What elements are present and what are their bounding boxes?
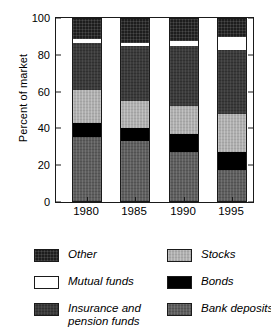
bar-segment-other bbox=[170, 19, 198, 41]
y-axis-tick-label: 20 bbox=[38, 159, 50, 171]
legend-swatch-other-icon bbox=[34, 249, 59, 262]
y-axis-tick-mark-right bbox=[248, 18, 253, 19]
y-axis-tick-mark bbox=[56, 128, 61, 129]
y-axis-tick-label: 80 bbox=[38, 49, 50, 61]
bar-segment-stocks bbox=[73, 90, 101, 123]
legend-swatch-bonds-icon bbox=[167, 276, 192, 289]
bar-segment-other bbox=[73, 19, 101, 39]
legend-item-insurance[interactable]: Insurance and pension funds bbox=[34, 302, 156, 318]
y-axis-tick-mark-right bbox=[248, 128, 253, 129]
bar-segment-insurance bbox=[73, 43, 101, 90]
legend-item-bank[interactable]: Bank deposits bbox=[167, 302, 271, 318]
legend-label-bank: Bank deposits bbox=[201, 302, 271, 315]
x-axis-tick-label-1995: 1995 bbox=[218, 205, 244, 217]
legend-item-other[interactable]: Other bbox=[34, 248, 156, 264]
legend-item-mutual[interactable]: Mutual funds bbox=[34, 275, 156, 291]
bar-segment-stocks bbox=[121, 101, 149, 128]
plot-area-wrapper: Percent of market 100806040200 198019851… bbox=[0, 0, 271, 240]
legend-swatch-insurance-icon bbox=[34, 303, 59, 316]
y-axis-tick-label: 40 bbox=[38, 122, 50, 134]
y-axis-tick-mark-right bbox=[248, 202, 253, 203]
legend-label-insurance: Insurance and pension funds bbox=[68, 302, 141, 328]
legend-swatch-bank-icon bbox=[167, 303, 192, 316]
bar-segment-bonds bbox=[73, 123, 101, 138]
bar-segment-mutual bbox=[218, 37, 246, 50]
x-axis-tick-mark bbox=[232, 197, 233, 202]
bar-segment-bonds bbox=[121, 128, 149, 141]
y-axis-tick-label: 0 bbox=[44, 196, 50, 208]
x-axis-tick-mark bbox=[184, 197, 185, 202]
y-axis-tick-mark-right bbox=[248, 91, 253, 92]
stacked-bar-chart-figure: Percent of market 100806040200 198019851… bbox=[0, 0, 271, 336]
bar-segment-bonds bbox=[218, 152, 246, 170]
bar-segment-bank bbox=[121, 141, 149, 201]
legend-item-stocks[interactable]: Stocks bbox=[167, 248, 271, 264]
bar-segment-stocks bbox=[170, 106, 198, 133]
legend-column-right: StocksBondsBank deposits bbox=[167, 248, 271, 329]
legend-label-stocks: Stocks bbox=[201, 248, 236, 261]
y-axis-tick-label: 60 bbox=[38, 86, 50, 98]
bar-segment-bonds bbox=[170, 134, 198, 152]
legend-label-other: Other bbox=[68, 248, 97, 261]
bar-1980[interactable] bbox=[72, 18, 102, 202]
bar-segment-bank bbox=[73, 137, 101, 201]
bar-segment-stocks bbox=[218, 114, 246, 152]
y-axis-tick-mark-right bbox=[248, 165, 253, 166]
bar-segment-insurance bbox=[218, 50, 246, 114]
bar-1995[interactable] bbox=[217, 18, 247, 202]
bar-segment-other bbox=[121, 19, 149, 43]
x-axis-tick-mark bbox=[135, 197, 136, 202]
x-axis-tick-label-1990: 1990 bbox=[170, 205, 196, 217]
bar-segment-insurance bbox=[170, 46, 198, 106]
legend-swatch-stocks-icon bbox=[167, 249, 192, 262]
bar-segment-bank bbox=[170, 152, 198, 201]
y-axis-tick-mark bbox=[56, 91, 61, 92]
y-axis-tick-label: 100 bbox=[32, 12, 50, 24]
y-axis-label: Percent of market bbox=[17, 28, 29, 168]
legend-item-bonds[interactable]: Bonds bbox=[167, 275, 271, 291]
legend-swatch-mutual-icon bbox=[34, 276, 59, 289]
x-axis-tick-label-1985: 1985 bbox=[121, 205, 147, 217]
legend-label-mutual: Mutual funds bbox=[68, 275, 134, 288]
bar-segment-insurance bbox=[121, 46, 149, 101]
x-axis-tick-mark bbox=[87, 197, 88, 202]
x-axis-tick-label-1980: 1980 bbox=[73, 205, 99, 217]
bar-1990[interactable] bbox=[169, 18, 199, 202]
y-axis-tick-mark bbox=[56, 202, 61, 203]
plot-axes: 100806040200 bbox=[55, 17, 254, 203]
legend-column-left: OtherMutual fundsInsurance and pension f… bbox=[34, 248, 156, 329]
y-axis-tick-mark bbox=[56, 165, 61, 166]
chart-legend: OtherMutual fundsInsurance and pension f… bbox=[34, 248, 266, 332]
y-axis-tick-mark bbox=[56, 54, 61, 55]
y-axis-tick-mark bbox=[56, 18, 61, 19]
legend-label-bonds: Bonds bbox=[201, 275, 234, 288]
bar-segment-other bbox=[218, 19, 246, 37]
y-axis-tick-mark-right bbox=[248, 54, 253, 55]
bar-1985[interactable] bbox=[120, 18, 150, 202]
